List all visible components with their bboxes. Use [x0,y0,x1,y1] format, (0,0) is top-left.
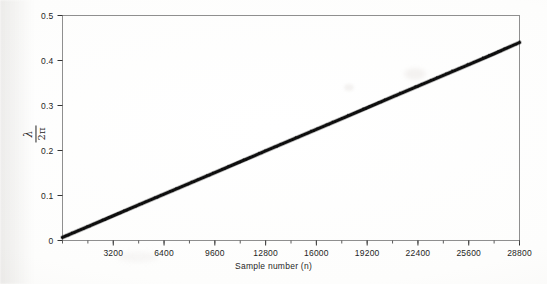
data-point [80,228,82,230]
data-point [439,76,441,78]
data-point [482,56,484,58]
data-point [362,107,364,109]
y-tick-label: 0 [49,236,54,246]
data-point [105,219,107,221]
data-point [114,214,116,216]
data-point [405,90,407,92]
data-point [187,184,189,186]
data-point [436,76,438,78]
x-tick-label: 3200 [103,248,123,258]
data-point [148,200,150,202]
data-point [74,232,76,234]
data-point [319,127,321,129]
data-point [304,133,306,135]
data-point [371,105,373,107]
data-point [267,149,269,151]
data-point [89,226,91,228]
data-point [344,117,346,119]
data-point [338,119,340,121]
data-point [194,181,196,183]
data-point [71,231,73,233]
data-point [181,185,183,187]
data-point [411,88,413,90]
data-point [316,127,318,129]
data-point [476,60,478,62]
data-point [129,207,131,209]
data-point [506,48,508,50]
data-point [497,50,499,52]
data-point [448,73,450,75]
data-point [408,88,410,90]
y-tick-label: 0.3 [41,101,53,111]
data-point [378,101,380,103]
data-point [135,206,137,208]
x-axis-title: Sample number (n) [0,261,547,271]
data-point [390,97,392,99]
data-point [197,178,199,180]
data-point [190,180,192,182]
data-point [365,108,367,110]
data-point [341,117,343,119]
data-point [108,216,110,218]
data-point [132,206,134,208]
data-point [86,225,88,227]
x-tick-label: 9600 [205,248,225,258]
data-point [144,201,146,203]
data-point [209,175,211,177]
data-point [206,174,208,176]
data-point [325,123,327,125]
data-point [184,184,186,186]
data-point [255,155,257,157]
data-line [63,43,520,238]
data-point [353,112,355,114]
x-tick-label: 19200 [355,248,380,258]
data-point [356,111,358,113]
data-point [451,69,453,71]
data-point [473,61,475,63]
y-tick-label: 0.4 [41,56,53,66]
data-point [513,44,515,46]
data-point [166,192,168,194]
data-point [126,210,128,212]
data-point [249,156,251,158]
data-point [503,47,505,49]
data-point [485,57,487,59]
data-point [246,159,248,161]
data-point [243,158,245,160]
data-point [68,235,70,237]
data-point [460,66,462,68]
data-point [491,54,493,56]
data-point [261,153,263,155]
data-point [230,165,232,167]
data-point [289,139,291,141]
data-point [175,187,177,189]
data-point [384,98,386,100]
data-point [381,102,383,104]
data-point [117,212,119,214]
data-point [77,230,79,232]
x-tick-label: 6400 [154,248,174,258]
data-point [387,98,389,100]
data-point [298,137,300,139]
data-point [120,213,122,215]
data-point [310,130,312,132]
x-axis-tick-labels: 3200640096001280016000192002240025600288… [103,248,531,258]
data-point [328,124,330,126]
data-point [95,222,97,224]
data-point [457,68,459,70]
line-chart: 3200640096001280016000192002240025600288… [0,0,547,284]
data-point [252,155,254,157]
data-point [233,163,235,165]
data-point [470,64,472,66]
data-point [215,171,217,173]
data-point [62,237,64,239]
data-point [463,66,465,68]
y-axis-major-ticks [58,16,63,241]
data-point [292,139,294,141]
data-point [307,133,309,135]
data-point [273,145,275,147]
y-axis-label: λ 2π [20,112,50,156]
data-point [350,114,352,116]
data-point [270,148,272,150]
y-axis-label-numerator: λ [23,129,35,140]
